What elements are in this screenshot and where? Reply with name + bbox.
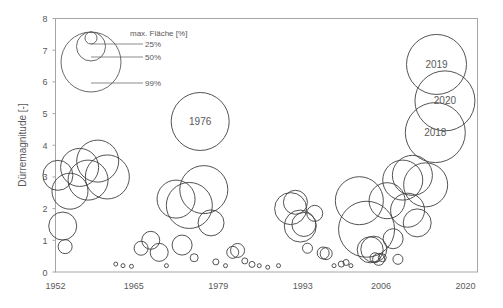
y-tick-label-2: 2 <box>42 204 47 214</box>
plot-area-border <box>56 19 478 273</box>
y-tick-label-5: 5 <box>42 109 47 119</box>
x-tick-label-1979: 1979 <box>208 281 228 291</box>
legend-title: max. Fläche [%] <box>130 29 187 38</box>
y-tick-label-7: 7 <box>42 46 47 56</box>
y-tick-label-8: 8 <box>42 14 47 24</box>
bubble-label-1976: 1976 <box>189 116 212 127</box>
bubble-label-2019: 2019 <box>425 59 448 70</box>
x-tick-label-2006: 2006 <box>371 281 391 291</box>
chart-root: 012345678 195219651979199320062020 Dürre… <box>0 0 503 308</box>
y-tick-label-1: 1 <box>42 236 47 246</box>
x-tick-label-2020: 2020 <box>455 281 475 291</box>
plot-frame <box>56 19 478 273</box>
x-axis-ticks: 195219651979199320062020 <box>45 281 475 291</box>
y-tick-label-4: 4 <box>42 141 47 151</box>
y-axis-ticks: 012345678 <box>42 14 55 278</box>
bubble-label-2018: 2018 <box>424 127 447 138</box>
y-tick-label-0: 0 <box>42 268 47 278</box>
bubble-label-2020: 2020 <box>434 95 457 106</box>
y-tick-label-6: 6 <box>42 77 47 87</box>
y-axis-title: Dürremagnitude [-] <box>17 103 28 187</box>
x-tick-label-1993: 1993 <box>293 281 313 291</box>
legend-label-99: 99% <box>145 79 161 88</box>
bubble-chart: 012345678 195219651979199320062020 Dürre… <box>0 0 503 308</box>
x-tick-label-1952: 1952 <box>45 281 65 291</box>
legend-label-50: 50% <box>145 53 161 62</box>
legend-label-25: 25% <box>145 40 161 49</box>
x-tick-label-1965: 1965 <box>124 281 144 291</box>
